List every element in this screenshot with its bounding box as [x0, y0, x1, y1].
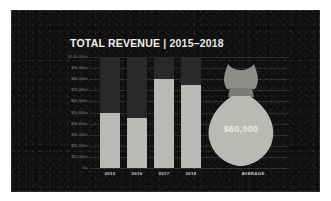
y-axis-tick [85, 156, 88, 157]
chart-title-years: 2015–2018 [170, 37, 224, 49]
y-axis-label: $10,000 [71, 155, 85, 159]
x-axis-label: 2018 [181, 171, 201, 176]
y-axis-tick [85, 145, 88, 146]
y-axis-tick [85, 68, 88, 69]
chart-title-main: TOTAL REVENUE [70, 37, 160, 49]
bar-value [154, 79, 174, 168]
y-axis-tick [85, 79, 88, 80]
y-axis-tick [85, 57, 88, 58]
x-axis-label: 2017 [154, 171, 174, 176]
y-axis-label: $40,000 [71, 122, 85, 126]
y-axis-label: $60,000 [71, 99, 85, 103]
money-bag-icon: $60,000 [202, 62, 280, 168]
y-axis-tick [85, 168, 88, 169]
y-axis-label: $1,00,000 [68, 55, 85, 59]
y-axis-label: $20,000 [71, 144, 85, 148]
gridline [89, 168, 289, 169]
y-axis-tick [85, 134, 88, 135]
bar-value [181, 85, 201, 168]
chart-title-separator: | [163, 37, 166, 49]
money-bag-value: $60,000 [202, 124, 280, 134]
chart-slide: TOTAL REVENUE | 2015–2018 $1,00,000$90,0… [11, 10, 320, 192]
y-axis-label: $90,000 [71, 66, 85, 70]
bar-column [100, 57, 120, 168]
x-axis-label-average: AVERAGE [217, 171, 289, 176]
bar-value [127, 118, 147, 168]
x-axis-label: 2016 [127, 171, 147, 176]
chart-title: TOTAL REVENUE | 2015–2018 [70, 37, 224, 49]
bar-value [100, 113, 120, 169]
y-axis-label: $50,000 [71, 111, 85, 115]
y-axis-label: $80,000 [71, 77, 85, 81]
x-axis-label: 2015 [100, 171, 120, 176]
y-axis-tick [85, 123, 88, 124]
bar-column [154, 57, 174, 168]
y-axis-tick [85, 90, 88, 91]
bar-column [181, 57, 201, 168]
y-axis-tick [85, 101, 88, 102]
y-axis-label: $30,000 [71, 133, 85, 137]
y-axis-tick [85, 112, 88, 113]
bar-column [127, 57, 147, 168]
y-axis-label: 0 [83, 166, 85, 170]
y-axis-label: $70,000 [71, 88, 85, 92]
